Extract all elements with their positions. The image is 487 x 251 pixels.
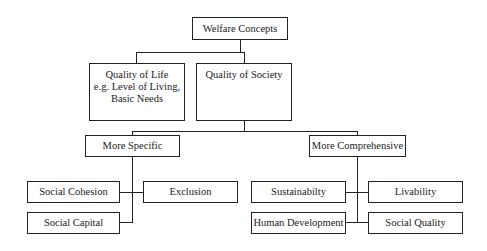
node-label: Social Capital [44, 217, 103, 229]
connector-specific-trunk [132, 157, 133, 223]
node-label: Social Cohesion [39, 186, 108, 198]
node-label-line: Quality of Life [106, 69, 169, 81]
node-label-line: e.g. Level of Living, [94, 81, 180, 93]
node-label: Sustainabilty [271, 186, 326, 198]
node-label: Human Development [253, 217, 343, 229]
node-more-comprehensive: More Comprehensive [309, 135, 406, 157]
node-label: More Comprehensive [312, 140, 403, 152]
node-sustainability: Sustainabilty [251, 181, 346, 203]
node-label: Social Quality [385, 217, 445, 229]
connector-to-quality-of-life [136, 52, 137, 63]
connector-to-quality-of-society [244, 52, 245, 63]
node-exclusion: Exclusion [143, 181, 238, 203]
node-label-line: Basic Needs [111, 93, 163, 105]
node-quality-of-society: Quality of Society [196, 63, 292, 121]
node-welfare-concepts: Welfare Concepts [192, 17, 288, 40]
node-label: Exclusion [170, 186, 212, 198]
node-social-quality: Social Quality [368, 212, 463, 234]
welfare-concepts-diagram: Welfare Concepts Quality of Life e.g. Le… [0, 0, 487, 251]
connector-specific-row1 [120, 192, 143, 193]
connector-level2-bar [132, 131, 358, 132]
connector-specific-row2 [120, 222, 133, 223]
connector-level1-bar [136, 52, 244, 53]
node-label: More Specific [103, 140, 163, 152]
connector-comprehensive-row1 [346, 192, 368, 193]
connector-society-down [244, 121, 245, 131]
node-label: Quality of Society [206, 69, 283, 81]
node-social-capital: Social Capital [27, 212, 120, 234]
node-label: Welfare Concepts [203, 23, 278, 35]
node-more-specific: More Specific [85, 135, 180, 157]
node-social-cohesion: Social Cohesion [27, 181, 120, 203]
connector-comprehensive-row2 [346, 222, 368, 223]
node-livability: Livability [368, 181, 463, 203]
connector-root-down [240, 39, 241, 52]
node-quality-of-life: Quality of Life e.g. Level of Living, Ba… [89, 63, 185, 121]
node-human-development: Human Development [251, 212, 346, 234]
node-label: Livability [395, 186, 436, 198]
connector-comprehensive-trunk [357, 157, 358, 223]
